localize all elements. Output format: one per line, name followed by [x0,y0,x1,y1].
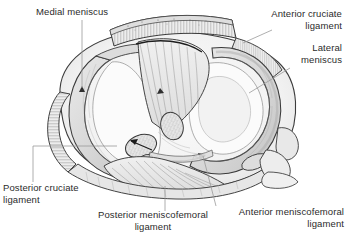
label-lateral-meniscus: Lateral meniscus [230,42,342,65]
label-posterior-cruciate-ligament: Posterior cruciate ligament [3,182,113,205]
figure-page: Medial meniscus Anterior cruciate ligame… [0,0,346,246]
label-medial-meniscus: Medial meniscus [36,6,156,18]
label-anterior-meniscofemoral-ligament: Anterior meniscofemoral ligament [198,206,344,229]
label-anterior-cruciate-ligament: Anterior cruciate ligament [230,8,342,31]
